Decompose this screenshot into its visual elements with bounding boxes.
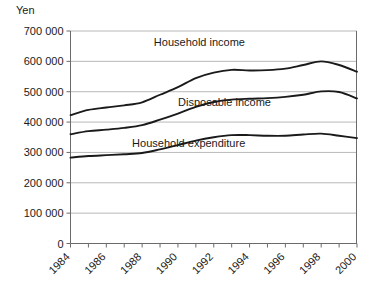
x-tick-label: 1990 [154, 250, 180, 276]
x-axis-ticklabels-group: 198419861988199019921994199619982000 [46, 250, 358, 276]
x-tick-label: 1986 [82, 250, 108, 276]
y-tick-label: 600 000 [24, 55, 64, 67]
y-tick-label: 300 000 [24, 146, 64, 158]
series-annotation-label: Disposable income [178, 96, 271, 108]
x-tick-label: 1992 [189, 250, 215, 276]
series-annotations-group: Household incomeDisposable incomeHouseho… [132, 36, 271, 149]
x-tick-label: 1998 [297, 250, 323, 276]
x-tick-label: 2000 [333, 250, 359, 276]
x-tick-label: 1996 [261, 250, 287, 276]
x-tick-label: 1994 [225, 250, 251, 276]
y-tick-label: 100 000 [24, 207, 64, 219]
y-axis-ticklabels-group: 0100 000200 000300 000400 000500 000600 … [24, 25, 64, 250]
line-chart-svg: 0100 000200 000300 000400 000500 000600 … [0, 0, 373, 290]
chart-container: Yen 0100 000200 000300 000400 000500 000… [0, 0, 373, 290]
y-tick-label: 500 000 [24, 86, 64, 98]
series-annotation-label: Household expenditure [132, 137, 245, 149]
x-axis-tickmarks-group [71, 244, 358, 248]
y-tick-label: 0 [57, 238, 63, 250]
x-tick-label: 1984 [46, 250, 72, 276]
series-annotation-label: Household income [154, 36, 245, 48]
y-tick-label: 200 000 [24, 177, 64, 189]
y-tick-label: 400 000 [24, 116, 64, 128]
x-tick-label: 1988 [118, 250, 144, 276]
y-tick-label: 700 000 [24, 25, 64, 37]
